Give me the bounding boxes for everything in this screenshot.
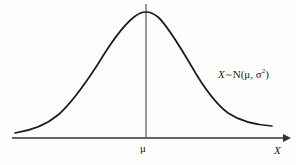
x-axis-arrow-icon <box>283 134 291 142</box>
x-axis-label: X <box>274 145 281 156</box>
annotation-dist-close: ) <box>265 68 269 80</box>
distribution-annotation: X~N(μ, σ2) <box>218 69 269 80</box>
normal-distribution-figure: μ X X~N(μ, σ2) <box>0 0 296 165</box>
annotation-variable: X <box>218 68 225 80</box>
annotation-dist-open: N( <box>233 68 245 80</box>
annotation-tilde-icon: ~ <box>225 68 233 80</box>
mean-tick-label: μ <box>140 143 146 154</box>
bell-curve-diagram <box>0 0 296 165</box>
